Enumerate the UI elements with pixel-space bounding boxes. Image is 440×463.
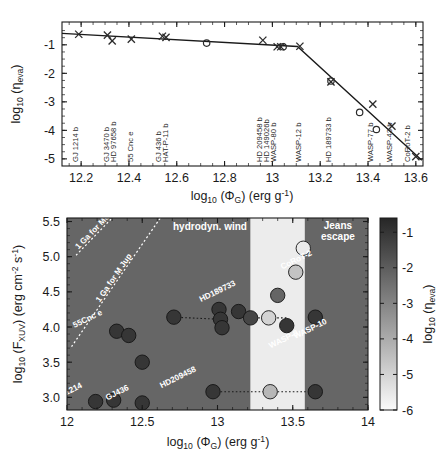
bottom-data-point [206,385,220,399]
bottom-panel: 1 Ga for Me1 Ga for M JupGJ1214GJ43655Cn… [10,212,375,451]
bottom-data-point [88,394,102,408]
bottom-xtick-label: 12 [60,415,74,429]
colorbar-tick-label: -6 [402,404,413,418]
bottom-region-label-jeans-line1: Jeans [324,220,353,231]
top-ytick-label: -3 [44,95,55,109]
bottom-data-point [263,385,277,399]
bottom-region-label-jeans: Jeansescape [321,220,355,242]
bottom-xtick-label: 12.5 [130,415,154,429]
bottom-ytick-label: 3.0 [43,391,60,405]
top-planet-label: HD 97658 b [109,121,118,162]
bottom-region-label-jeans-line2: escape [321,231,355,242]
top-xtick-label: 13.6 [404,171,428,185]
top-planet-label: CoRoT-2 b [403,125,412,162]
bottom-xtick-label: 13 [211,415,225,429]
top-data-cross [128,36,135,43]
top-ytick-label: -1 [44,38,55,52]
top-ytick-label: -2 [44,67,55,81]
colorbar-tick-label: -2 [402,261,413,275]
top-data-cross [369,101,376,108]
bottom-data-point [261,311,275,325]
colorbar: -1-2-3-4-5-6log10 (ηeva) [380,218,437,418]
bottom-ytick-label: 5.5 [43,215,60,229]
top-xtick-label: 13 [265,171,279,185]
bottom-data-point [135,355,149,369]
top-planet-label: 55 Cnc e [126,132,135,162]
top-panel: 12.212.412.612.81313.213.413.6-1-2-3-4-5… [9,22,428,205]
top-planet-label: HAT-P-11 b [161,123,170,162]
figure-canvas: 12.212.412.612.81313.213.413.6-1-2-3-4-5… [0,0,440,463]
colorbar-gradient [380,218,397,410]
colorbar-tick-label: -4 [402,332,413,346]
bottom-ytick-label: 4.0 [43,321,60,335]
bottom-ytick-label: 3.5 [43,356,60,370]
top-planet-label: WASP-43 b [385,123,394,162]
top-yaxis-label: log10 (ηeva) [9,65,25,124]
bottom-data-point [243,311,257,325]
top-xtick-label: 12.2 [69,171,93,185]
top-data-cross [104,32,111,39]
top-planet-label: GJ 1214 b [71,127,80,162]
top-xtick-label: 12.4 [117,171,141,185]
top-planet-label: WASP-12 b [294,123,303,162]
bottom-data-point [122,328,136,342]
bottom-xaxis-label: log10 (ΦG) (erg g-1) [167,434,270,452]
top-xtick-label: 12.8 [212,171,236,185]
bottom-xtick-label: 13.5 [281,415,305,429]
figure-root: 12.212.412.612.81313.213.413.6-1-2-3-4-5… [0,0,440,463]
top-data-circle [356,109,362,115]
top-ytick-label: -5 [44,152,55,166]
top-xtick-label: 13.4 [356,171,380,185]
colorbar-tick-label: -1 [402,226,413,240]
top-planet-label: WASP-77 b [366,123,375,162]
top-data-cross [109,37,116,44]
bottom-data-point [167,310,181,324]
top-data-cross [259,37,266,44]
bottom-xtick-label: 14 [361,415,375,429]
bottom-ytick-label: 5.0 [43,250,60,264]
top-ytick-label: -4 [44,124,55,138]
top-xaxis-label: log10 (ΦG) (erg g-1) [191,188,294,206]
top-planet-label: WASP-80 b [269,123,278,162]
colorbar-tick-label: -5 [402,368,413,382]
bottom-yaxis-label: log10 (FXUV) (erg cm-2 s-1) [10,245,28,383]
colorbar-label: log10 (ηeva) [421,285,437,344]
bottom-data-point [271,288,285,302]
bottom-region-label-hydrodyn: hydrodyn. wind [173,221,247,232]
top-xtick-label: 12.6 [165,171,189,185]
top-planet-label: HD 189733 b [324,117,333,162]
colorbar-tick-label: -3 [402,297,413,311]
top-xtick-label: 13.2 [308,171,332,185]
bottom-data-point [308,385,322,399]
bottom-data-point [215,321,229,335]
bottom-ytick-label: 4.5 [43,285,60,299]
